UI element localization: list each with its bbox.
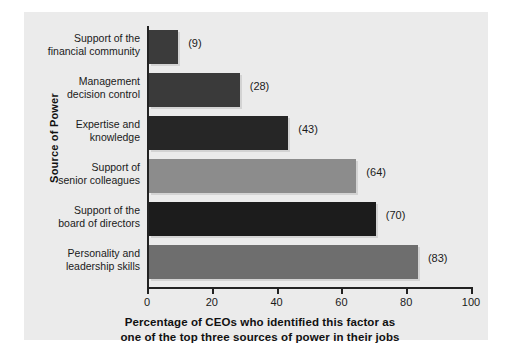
x-axis-tick — [212, 287, 214, 294]
bar-value-label: (70) — [386, 209, 406, 221]
x-axis-tick — [471, 287, 473, 294]
category-label-line1: Management — [16, 75, 140, 88]
x-axis-tick — [277, 287, 279, 294]
category-label-line1: Support of the — [16, 204, 140, 217]
category-label-line2: board of directors — [16, 217, 140, 230]
bar-value-label: (9) — [188, 37, 201, 49]
bar-value-label: (43) — [298, 123, 318, 135]
bar — [149, 245, 418, 279]
x-axis-tick-label: 20 — [192, 296, 232, 308]
x-axis-tick-label: 60 — [321, 296, 361, 308]
x-axis-line — [147, 287, 472, 289]
category-label-line2: financial community — [16, 45, 140, 58]
category-label-line2: knowledge — [16, 131, 140, 144]
x-axis-tick-label: 100 — [451, 296, 491, 308]
x-axis-title-line2: one of the top three sources of power in… — [60, 330, 460, 345]
category-label-line1: Expertise and — [16, 118, 140, 131]
category-label-line1: Personality and — [16, 247, 140, 260]
category-label-line2: senior colleagues — [16, 174, 140, 187]
category-label: Support of the financial community — [16, 32, 140, 57]
category-label-line2: leadership skills — [16, 260, 140, 273]
bar — [149, 30, 178, 64]
x-axis-tick-label: 40 — [257, 296, 297, 308]
x-axis-tick-label: 0 — [127, 296, 167, 308]
bar — [149, 159, 356, 193]
x-axis-title: Percentage of CEOs who identified this f… — [60, 315, 460, 344]
bar — [149, 202, 376, 236]
category-label-line1: Support of the — [16, 32, 140, 45]
category-label-line1: Support of — [16, 161, 140, 174]
bar-value-label: (83) — [428, 252, 448, 264]
bar-value-label: (28) — [250, 80, 270, 92]
bar — [149, 116, 288, 150]
category-label-line2: decision control — [16, 88, 140, 101]
x-axis-tick-label: 80 — [386, 296, 426, 308]
x-axis-tick — [147, 287, 149, 294]
y-axis-tick-labels: Support of the financial community Manag… — [12, 26, 140, 285]
category-label: Support of the board of directors — [16, 204, 140, 229]
x-axis-tick — [406, 287, 408, 294]
category-label: Expertise and knowledge — [16, 118, 140, 143]
chart-figure: Source of Power Support of the financial… — [0, 0, 512, 362]
category-label: Management decision control — [16, 75, 140, 100]
bar — [149, 73, 240, 107]
x-axis-tick — [341, 287, 343, 294]
bar-value-label: (64) — [366, 166, 386, 178]
category-label: Support of senior colleagues — [16, 161, 140, 186]
category-label: Personality and leadership skills — [16, 247, 140, 272]
x-axis-title-line1: Percentage of CEOs who identified this f… — [60, 315, 460, 330]
